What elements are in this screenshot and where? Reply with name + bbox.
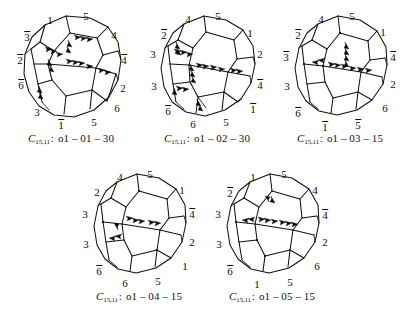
vertex-label: 4 [257, 79, 263, 91]
panel-caption-3: C15,11: o1 – 03 – 15 [273, 132, 407, 146]
vertex-label: 4 [111, 30, 117, 41]
polyhedral-graph-1 [4, 2, 138, 134]
vertex-label: 1 [380, 27, 386, 38]
vertex-label: 6 [165, 105, 171, 117]
vertex-label: 3 [83, 239, 89, 250]
panel-caption-4: C15,11: o1 – 04 – 15 [72, 290, 206, 304]
vertex-label: 2 [390, 79, 396, 90]
vertex-label: 2 [161, 29, 167, 41]
vertex-label: 5 [223, 117, 229, 128]
vertex-label: 2 [227, 187, 233, 199]
vertex-label: 5 [355, 119, 361, 131]
caption-separator: : [186, 132, 191, 144]
vertex-label: 5 [147, 169, 153, 180]
vertex-label: 3 [24, 31, 30, 43]
vertex-label: 5 [215, 11, 221, 22]
vertex-label: 5 [349, 11, 355, 22]
vertex-label: 4 [318, 14, 324, 25]
vertex-label: 3 [82, 209, 88, 220]
caption-separator: : [118, 290, 123, 302]
caption-subscript: 15,11 [171, 138, 186, 146]
vertex-label: 4 [117, 172, 123, 183]
vertex-label: 4 [189, 208, 195, 220]
vertex-label: 6 [295, 107, 301, 119]
vertex-label: 5 [155, 276, 161, 287]
vertex-label: 6 [314, 261, 320, 272]
vertex-label: 1 [182, 261, 188, 272]
vertex-label: 3 [215, 209, 221, 220]
vertex-label: 5 [281, 169, 287, 180]
polyhedral-graph-4 [72, 160, 206, 292]
figure-panel-5: 1 5 2 4 3 4 3 2 6 6 1 5 C15,11: o1 – 05 … [205, 160, 339, 318]
vertex-label: 6 [18, 79, 24, 91]
panel-caption-1: C15,11: o1 – 01 – 30 [4, 132, 138, 146]
vertex-label: 3 [150, 49, 156, 60]
vertex-label: 3 [216, 239, 222, 250]
vertex-label: 6 [122, 278, 128, 289]
vertex-label: 2 [257, 49, 263, 60]
vertex-label: 2 [17, 54, 23, 66]
vertex-label: 3 [151, 81, 157, 92]
vertex-label: 4 [312, 185, 318, 196]
caption-subscript: 15,11 [304, 138, 319, 146]
vertex-label: 2 [295, 29, 301, 41]
vertex-label: 4 [390, 51, 396, 63]
figure-sheet: 1 5 3 4 2 4 6 2 3 6 1 5 C15,11: o1 – 01 … [0, 0, 409, 318]
vertex-label: 1 [254, 279, 260, 290]
caption-code: o1 – 03 – 15 [327, 132, 383, 144]
vertex-label: 5 [83, 11, 89, 22]
vertex-label: 1 [250, 172, 256, 183]
caption-subscript: 15,11 [35, 138, 50, 146]
vertex-label: 6 [114, 103, 120, 114]
caption-separator: : [251, 290, 256, 302]
vertex-label: 4 [322, 209, 328, 221]
panel-caption-2: C15,11: o1 – 02 – 30 [140, 132, 274, 146]
figure-panel-4: 4 5 2 1 3 4 3 2 6 1 6 5 C15,11: o1 – 04 … [72, 160, 206, 318]
panel-caption-5: C15,11: o1 – 05 – 15 [205, 290, 339, 304]
vertex-label: 1 [58, 119, 64, 131]
caption-subscript: 15,11 [103, 296, 118, 304]
vertex-label: 1 [47, 15, 53, 26]
vertex-label: 5 [91, 117, 97, 128]
vertex-label: 2 [120, 83, 126, 94]
vertex-label: 2 [322, 237, 328, 248]
vertex-label: 1 [247, 28, 253, 39]
figure-panel-1: 1 5 3 4 2 4 6 2 3 6 1 5 C15,11: o1 – 01 … [4, 2, 138, 160]
vertex-label: 3 [284, 81, 290, 92]
vertex-label: 3 [34, 107, 40, 118]
vertex-label: 6 [227, 265, 233, 277]
caption-code: o1 – 01 – 30 [58, 132, 114, 144]
figure-panel-2: 4 5 2 1 3 2 3 4 6 1 6 5 C15,11: o1 – 02 … [140, 2, 274, 160]
caption-code: o1 – 02 – 30 [194, 132, 250, 144]
caption-code: o1 – 04 – 15 [126, 290, 182, 302]
figure-panel-3: 4 5 2 1 3 4 3 2 6 6 1 5 C15,11: o1 – 03 … [273, 2, 407, 160]
vertex-label: 2 [189, 237, 195, 248]
vertex-label: 3 [283, 51, 289, 63]
caption-separator: : [50, 132, 55, 144]
caption-code: o1 – 05 – 15 [259, 290, 315, 302]
vertex-label: 1 [250, 103, 256, 115]
vertex-label: 6 [382, 103, 388, 114]
vertex-label: 4 [121, 54, 127, 66]
vertex-label: 1 [179, 185, 185, 196]
polyhedral-graph-3 [273, 2, 407, 134]
vertex-label: 5 [287, 277, 293, 288]
vertex-label: 4 [185, 14, 191, 25]
vertex-label: 6 [96, 265, 102, 277]
vertex-label: 6 [190, 119, 196, 130]
polyhedral-graph-5 [205, 160, 339, 292]
vertex-label: 2 [94, 187, 100, 198]
caption-separator: : [319, 132, 324, 144]
caption-subscript: 15,11 [236, 296, 251, 304]
